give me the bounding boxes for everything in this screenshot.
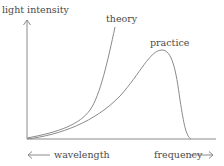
wavelength-label: wavelength [54, 150, 110, 160]
practice-curve [27, 50, 191, 139]
y-axis-label: light intensity [2, 5, 69, 15]
y-axis [24, 20, 31, 139]
theory-label: theory [106, 14, 137, 24]
frequency-label: frequency [154, 150, 202, 160]
diagram-canvas [0, 0, 224, 166]
wavelength-arrow-icon [28, 152, 50, 159]
practice-label: practice [150, 38, 189, 48]
theory-curve [27, 27, 115, 138]
